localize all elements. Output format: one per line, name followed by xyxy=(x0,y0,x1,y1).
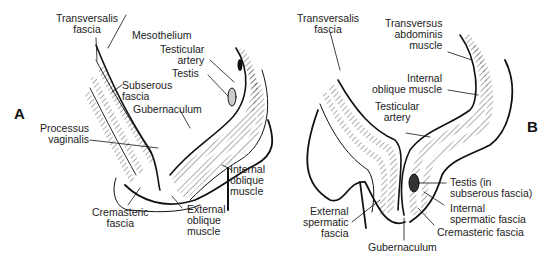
label-b-internal-oblique-muscle: Internal oblique muscle xyxy=(372,73,442,95)
text-line: muscle xyxy=(230,186,265,197)
label-b-external-spermatic-fascia: External spermatic fascia xyxy=(303,206,349,239)
label-b-cremasteric-fascia: Cremasteric fascia xyxy=(437,227,524,238)
label-a-processus-vaginalis: Processus vaginalis xyxy=(40,123,89,145)
label-a-gubernaculum: Gubernaculum xyxy=(133,104,202,115)
label-a-internal-oblique-muscle: Internal oblique muscle xyxy=(230,164,265,197)
text-line: muscle xyxy=(385,40,442,51)
text-line: Testis xyxy=(172,68,199,79)
text-line: fascia xyxy=(297,24,359,35)
text-line: vaginalis xyxy=(40,134,89,145)
label-b-transversalis-fascia: Transversalis fascia xyxy=(297,13,359,35)
label-b-internal-spermatic-fascia: Internal spermatic fascia xyxy=(450,203,526,225)
label-a-testicular-artery: Testicular artery xyxy=(160,44,204,66)
text-line: artery xyxy=(375,112,419,123)
label-b-testis: Testis (in subserous fascia) xyxy=(450,177,532,199)
text-line: Cremasteric fascia xyxy=(437,227,524,238)
text-line: spermatic fascia xyxy=(450,214,526,225)
label-a-transversalis-fascia: Transversalis fascia xyxy=(56,13,118,35)
panel-b-label: B xyxy=(527,118,538,135)
text-line: fascia xyxy=(122,91,172,102)
text-line: Mesothelium xyxy=(132,30,192,41)
label-b-testicular-artery: Testicular artery xyxy=(375,101,419,123)
label-a-mesothelium: Mesothelium xyxy=(132,30,192,41)
text-line: Gubernaculum xyxy=(133,104,202,115)
text-line: muscle xyxy=(187,226,226,237)
text-line: subserous fascia) xyxy=(450,188,532,199)
label-a-cremasteric-fascia: Cremasteric fascia xyxy=(92,207,149,229)
text-line: Gubernaculum xyxy=(368,242,437,253)
text-line: fascia xyxy=(92,218,149,229)
text-line: fascia xyxy=(303,228,349,239)
label-a-subserous-fascia: Subserous fascia xyxy=(122,80,172,102)
label-a-testis: Testis xyxy=(172,68,199,79)
label-b-gubernaculum: Gubernaculum xyxy=(368,242,437,253)
text-line: oblique muscle xyxy=(372,84,442,95)
text-line: fascia xyxy=(56,24,118,35)
label-a-external-oblique-muscle: External oblique muscle xyxy=(187,204,226,237)
panel-a-label: A xyxy=(14,105,25,122)
label-b-transversus-abdominis-muscle: Transversus abdominis muscle xyxy=(385,18,442,51)
text-line: artery xyxy=(160,55,204,66)
